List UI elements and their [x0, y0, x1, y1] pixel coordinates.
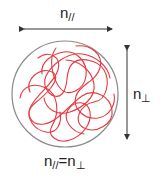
- rhs-subscript: ⊥: [76, 159, 86, 171]
- label-subscript: ⊥: [141, 92, 151, 104]
- n-parallel-label: n//: [60, 4, 74, 23]
- random-coil-chain: [20, 46, 114, 141]
- isotropic-chain-diagram: n// n⊥ n//=n⊥: [0, 0, 161, 185]
- equality-label: n//=n⊥: [44, 152, 86, 172]
- rhs-base: n: [67, 152, 75, 169]
- equals-sign: =: [58, 152, 67, 169]
- label-subscript: //: [68, 11, 74, 23]
- n-perpendicular-label: n⊥: [133, 85, 151, 105]
